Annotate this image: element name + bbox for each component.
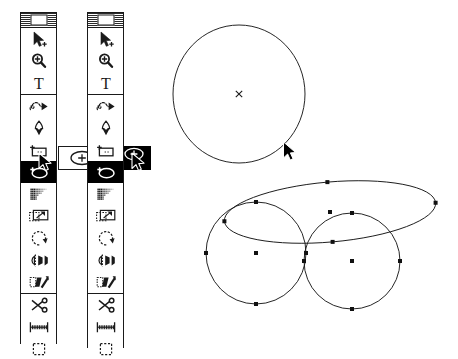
drawing-canvas[interactable]	[0, 0, 458, 359]
anchor-point-flat-ellipse[interactable]	[434, 201, 438, 205]
anchor-point-left-circle[interactable]	[254, 302, 258, 306]
anchor-point-flat-ellipse[interactable]	[331, 240, 335, 244]
center-mark-x-single-circle	[236, 91, 242, 97]
anchor-point-left-circle[interactable]	[254, 200, 258, 204]
arrow-pointer-cursor-canvas	[282, 141, 298, 163]
anchor-point-left-circle[interactable]	[204, 251, 208, 255]
anchor-point-right-circle[interactable]	[350, 307, 354, 311]
center-anchor-right-circle[interactable]	[350, 259, 354, 263]
center-anchor-left-circle[interactable]	[254, 251, 258, 255]
anchor-point-right-circle[interactable]	[398, 259, 402, 263]
center-anchor-flat-ellipse[interactable]	[328, 210, 332, 214]
anchor-point-right-circle[interactable]	[302, 259, 306, 263]
anchor-point-flat-ellipse[interactable]	[222, 219, 226, 223]
screenshot-stage: Vector Drawing Application T T	[0, 0, 458, 359]
anchor-point-right-circle[interactable]	[350, 211, 354, 215]
anchor-point-flat-ellipse[interactable]	[325, 180, 329, 184]
